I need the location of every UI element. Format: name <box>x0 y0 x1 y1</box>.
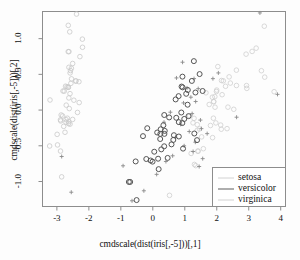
data-point-virginica <box>196 149 201 154</box>
data-point-versicolor <box>145 126 150 131</box>
data-point-versicolor <box>173 97 178 102</box>
data-point-versicolor <box>179 110 184 115</box>
data-point-virginica <box>192 162 197 167</box>
data-point-versicolor <box>176 94 181 99</box>
data-point-cross <box>121 164 125 168</box>
data-point-virginica <box>225 126 230 131</box>
x-tick-label: 4 <box>269 213 293 223</box>
data-point-virginica <box>254 46 259 51</box>
y-tick-label: 1.0 <box>13 25 23 51</box>
data-point-cross <box>142 189 146 193</box>
data-point-cross <box>194 100 198 104</box>
data-point-versicolor <box>152 149 157 154</box>
data-point-virginica <box>244 52 249 57</box>
data-point-virginica <box>211 99 216 104</box>
data-point-virginica <box>272 89 277 94</box>
data-point-versicolor <box>191 59 196 64</box>
data-point-virginica <box>207 102 212 107</box>
data-point-virginica <box>211 116 216 121</box>
x-axis-ticks <box>57 207 281 211</box>
data-point-versicolor <box>162 144 167 149</box>
series-points-setosa <box>47 12 84 179</box>
data-point-cross <box>211 77 215 81</box>
data-point-virginica <box>201 146 206 151</box>
data-point-setosa <box>59 175 64 180</box>
legend-label-setosa: setosa <box>238 172 261 182</box>
x-tick-label: 2 <box>205 213 229 223</box>
y-tick-label: -1.0 <box>13 168 23 194</box>
data-point-setosa <box>74 12 79 17</box>
data-point-cross <box>235 115 239 119</box>
data-point-versicolor <box>180 74 185 79</box>
y-tick-label: 0.5 <box>13 60 23 86</box>
data-point-setosa <box>61 124 66 129</box>
data-point-versicolor <box>176 134 181 139</box>
data-point-cross <box>171 154 175 158</box>
data-point-virginica <box>262 24 267 29</box>
data-point-versicolor <box>189 78 194 83</box>
data-point-setosa <box>67 30 72 35</box>
data-point-versicolor <box>165 155 170 160</box>
x-tick-label: -1 <box>109 213 133 223</box>
data-point-cross <box>181 60 185 64</box>
data-point-setosa <box>58 149 63 154</box>
data-point-versicolor <box>174 115 179 120</box>
chart-figure: cmdscale(dist(iris[,-5]))[,1] cmdscale(d… <box>0 0 300 260</box>
data-point-virginica <box>210 135 215 140</box>
data-point-cross <box>198 118 202 122</box>
data-point-versicolor <box>134 198 139 203</box>
data-point-cross <box>60 155 64 159</box>
data-point-setosa <box>67 96 72 101</box>
data-point-virginica <box>223 84 228 89</box>
data-point-cross <box>201 157 205 161</box>
data-point-versicolor <box>158 137 163 142</box>
data-point-virginica <box>213 105 218 110</box>
data-point-virginica <box>216 64 221 69</box>
data-point-virginica <box>234 83 239 88</box>
data-point-setosa <box>70 61 75 66</box>
data-point-setosa <box>72 98 77 103</box>
data-point-virginica <box>214 121 219 126</box>
data-point-versicolor <box>185 102 190 107</box>
data-point-setosa <box>66 23 71 28</box>
data-point-cross <box>168 110 172 114</box>
data-point-virginica <box>262 75 267 80</box>
data-point-setosa <box>80 45 85 50</box>
data-point-cross <box>205 132 209 136</box>
data-point-versicolor <box>181 146 186 151</box>
data-point-virginica <box>234 68 239 73</box>
x-axis-title: cmdscale(dist(iris[,-5]))[,1] <box>0 239 300 249</box>
data-point-setosa <box>55 132 60 137</box>
data-point-virginica <box>228 81 233 86</box>
data-point-virginica <box>245 86 250 91</box>
data-point-versicolor <box>133 159 138 164</box>
data-point-versicolor <box>140 134 145 139</box>
data-point-versicolor <box>197 72 202 77</box>
x-tick-label: -3 <box>45 213 69 223</box>
data-point-virginica <box>192 116 197 121</box>
data-point-virginica <box>250 49 255 54</box>
data-point-virginica <box>199 135 204 140</box>
x-tick-label: -2 <box>77 213 101 223</box>
data-point-cross <box>187 130 191 134</box>
data-point-setosa <box>55 143 60 148</box>
data-point-virginica <box>226 105 231 110</box>
data-point-setosa <box>77 100 82 105</box>
data-point-cross <box>130 199 134 203</box>
data-point-virginica <box>193 163 198 168</box>
data-point-setosa <box>68 91 73 96</box>
data-point-versicolor <box>167 115 172 120</box>
data-point-virginica <box>191 121 196 126</box>
data-point-setosa <box>59 113 64 118</box>
data-point-virginica <box>220 92 225 97</box>
data-point-setosa <box>75 110 80 115</box>
data-point-cross <box>189 95 193 99</box>
data-point-virginica <box>259 68 264 73</box>
x-tick-label: 1 <box>173 213 197 223</box>
data-point-versicolor <box>156 156 161 161</box>
data-point-cross <box>69 190 73 194</box>
data-point-setosa <box>74 79 79 84</box>
data-point-setosa <box>47 144 52 149</box>
data-point-setosa <box>78 54 83 59</box>
legend-label-versicolor: versicolor <box>238 183 276 193</box>
